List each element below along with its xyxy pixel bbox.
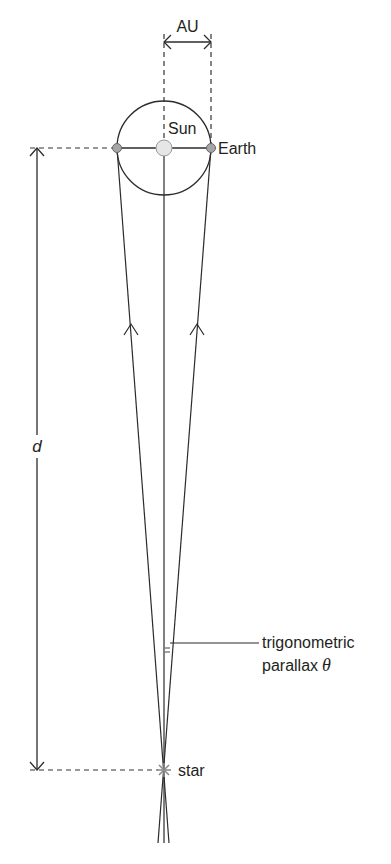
au-arrow: [164, 35, 211, 49]
parallax-angle-mark: [165, 648, 170, 652]
au-label: AU: [176, 18, 198, 35]
distance-label: d: [32, 437, 42, 456]
sun: [156, 140, 172, 156]
earth-position-right: [207, 144, 216, 153]
star-label: star: [178, 762, 205, 779]
star-icon: [157, 763, 171, 777]
earth-position-left: [113, 144, 122, 153]
distance-arrow: [30, 148, 44, 770]
parallax-diagram: AU d trigonometric parallaxθ Sun Earth: [0, 0, 391, 864]
sun-label: Sun: [168, 120, 196, 137]
earth-label: Earth: [218, 140, 256, 157]
parallax-label-line2: parallaxθ: [262, 655, 331, 675]
sightline-left: [117, 148, 169, 843]
sightline-right: [158, 148, 211, 843]
parallax-label-line1: trigonometric: [262, 634, 354, 651]
